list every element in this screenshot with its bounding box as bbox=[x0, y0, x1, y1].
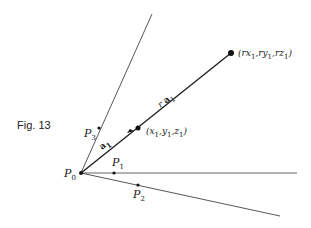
near-close: ) bbox=[184, 126, 188, 136]
label-near-coords: (x1,y1,z1) bbox=[146, 127, 187, 139]
figure-caption: Fig. 13 bbox=[17, 120, 51, 131]
label-far-coords: (rx1,ry1,rz1) bbox=[238, 49, 292, 61]
p2-sub: 2 bbox=[140, 195, 144, 203]
ray-p3 bbox=[81, 14, 152, 173]
p1-sub: 1 bbox=[119, 163, 123, 171]
ray-p2 bbox=[81, 173, 280, 216]
label-p1: P1 bbox=[112, 157, 124, 171]
p3-sub: 3 bbox=[91, 134, 95, 142]
near-y: ,y bbox=[159, 126, 167, 136]
p0-sub: 0 bbox=[71, 174, 75, 182]
label-p0: P0 bbox=[64, 168, 76, 182]
near-z: ,z bbox=[171, 126, 179, 136]
diagram-lines bbox=[0, 0, 311, 228]
ray-main bbox=[81, 53, 231, 173]
point-p3 bbox=[97, 126, 100, 129]
near-x: (x bbox=[146, 126, 155, 136]
point-p1 bbox=[112, 171, 115, 174]
point-far bbox=[228, 50, 234, 56]
point-p2 bbox=[136, 183, 139, 186]
far-y: ,ry bbox=[255, 48, 267, 58]
point-near bbox=[136, 126, 141, 131]
point-p0 bbox=[79, 171, 83, 175]
far-x: (rx bbox=[238, 48, 251, 58]
far-z: ,rz bbox=[272, 48, 284, 58]
label-p2: P2 bbox=[133, 189, 145, 203]
far-close: ) bbox=[288, 48, 292, 58]
label-p3: P3 bbox=[84, 128, 96, 142]
